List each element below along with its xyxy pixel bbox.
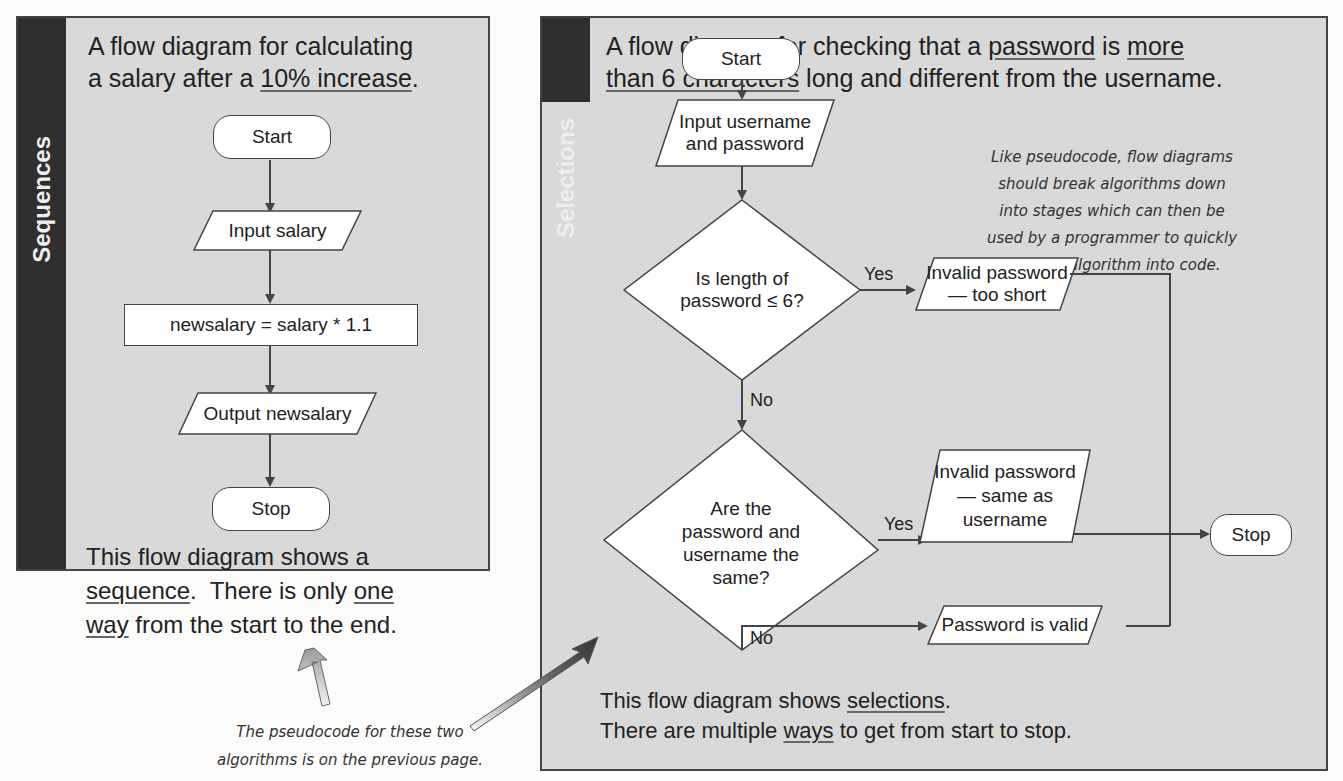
d2-yes-label: Yes (884, 514, 913, 535)
seq-output-node: Output newsalary (179, 393, 376, 434)
seq-stop-node: Stop (212, 487, 330, 531)
d1-yes-label: Yes (864, 264, 893, 285)
sel-start-node: Start (682, 38, 800, 80)
arrow-to-sequences-icon (298, 648, 330, 706)
seq-process-node: newsalary = salary * 1.1 (124, 304, 418, 346)
sel-output-valid: Password is valid (928, 606, 1102, 644)
selections-panel: Selections A flow diagram for checking t… (540, 16, 1328, 771)
seq-start-node: Start (213, 115, 331, 159)
sequences-panel: Sequences A flow diagram for calculating… (16, 16, 490, 571)
seq-input-node: Input salary (194, 211, 361, 250)
sel-stop-node: Stop (1210, 514, 1292, 556)
selections-footer: This flow diagram shows selections. Ther… (600, 686, 1072, 746)
sequences-footer-text: This flow diagram shows a sequence. Ther… (86, 540, 397, 642)
sel-output-too-short: Invalid password— too short (916, 258, 1078, 310)
bottom-note: The pseudocode for these two algorithms … (200, 718, 500, 774)
sel-decision-length: Is length ofpassword ≤ 6? (624, 200, 860, 380)
sel-output-same-as-username: Invalid password— same asusername (922, 450, 1088, 542)
sel-decision-same: Are thepassword andusername thesame? (604, 448, 878, 638)
d2-no-label: No (750, 628, 773, 649)
sel-input-node: Input usernameand password (656, 100, 834, 166)
d1-no-label: No (750, 390, 773, 411)
